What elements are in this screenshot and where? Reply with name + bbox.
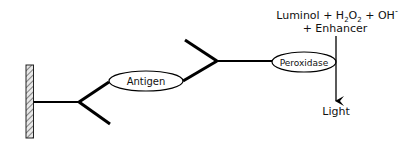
capture-antibody bbox=[34, 82, 111, 124]
peroxidase-label: Peroxidase bbox=[280, 58, 329, 68]
antigen-node: Antigen bbox=[109, 71, 183, 91]
solid-support bbox=[26, 65, 34, 138]
reagents-line-2: + Enhancer bbox=[303, 22, 368, 35]
elisa-diagram: Antigen Peroxidase Light Luminol + H2O2 … bbox=[0, 0, 414, 151]
detection-antibody bbox=[183, 40, 272, 81]
peroxidase-node: Peroxidase bbox=[272, 52, 336, 72]
antigen-label: Antigen bbox=[127, 76, 166, 87]
light-label: Light bbox=[322, 105, 350, 118]
